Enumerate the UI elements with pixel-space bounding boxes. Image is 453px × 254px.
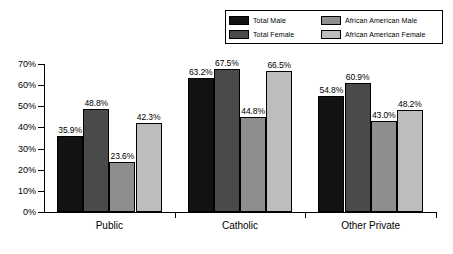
- y-axis-tick-label: 10%: [18, 186, 36, 196]
- legend-label-total-male: Total Male: [253, 16, 286, 25]
- bar: [136, 123, 162, 212]
- bar: [214, 69, 240, 212]
- bar-value-label: 66.5%: [266, 60, 292, 70]
- bar-value-label: 60.9%: [345, 72, 371, 82]
- legend-label-total-female: Total Female: [253, 30, 294, 39]
- bar-value-label: 48.8%: [83, 98, 109, 108]
- legend-swatch-total-male: [229, 16, 249, 25]
- y-axis-tick: [38, 212, 44, 213]
- legend-item-african-american-male: African American Male: [321, 14, 447, 27]
- bar-chart: Total Male African American Male Total F…: [0, 0, 453, 254]
- bar-value-label: 63.2%: [188, 67, 214, 77]
- legend-swatch-african-american-female: [321, 30, 341, 39]
- bar-value-label: 54.8%: [319, 85, 345, 95]
- bar-value-label: 35.9%: [57, 125, 83, 135]
- legend-swatch-total-female: [229, 30, 249, 39]
- bar-value-label: 67.5%: [214, 58, 240, 68]
- y-axis-tick-label: 0%: [23, 207, 36, 217]
- y-axis-tick-label: 40%: [18, 122, 36, 132]
- bar-value-label: 44.8%: [240, 106, 266, 116]
- bar-value-label: 23.6%: [110, 151, 136, 161]
- legend-label-african-american-male: African American Male: [345, 16, 417, 25]
- bar: [345, 83, 371, 212]
- legend-item-african-american-female: African American Female: [321, 28, 447, 41]
- bar: [240, 117, 266, 212]
- x-axis-category-label: Catholic: [222, 220, 258, 231]
- bar-value-label: 42.3%: [136, 112, 162, 122]
- legend-swatch-african-american-male: [321, 16, 341, 25]
- bar: [109, 162, 135, 212]
- x-axis-category-label: Public: [96, 220, 123, 231]
- legend-label-african-american-female: African American Female: [345, 30, 426, 39]
- bar: [397, 110, 423, 212]
- bar: [371, 121, 397, 212]
- bar: [318, 96, 344, 212]
- y-axis-tick-label: 20%: [18, 165, 36, 175]
- bar: [266, 71, 292, 212]
- legend-item-total-female: Total Female: [229, 28, 321, 41]
- bar: [57, 136, 83, 212]
- bar-value-label: 48.2%: [397, 99, 423, 109]
- y-axis-tick-label: 70%: [18, 59, 36, 69]
- plot-area: 35.9%48.8%23.6%42.3%63.2%67.5%44.8%66.5%…: [44, 64, 436, 212]
- x-axis-category-label: Other Private: [341, 220, 400, 231]
- legend-item-total-male: Total Male: [229, 14, 321, 27]
- x-axis-tick: [175, 213, 176, 218]
- x-axis-tick: [305, 213, 306, 218]
- y-axis-tick-label: 60%: [18, 80, 36, 90]
- y-axis-tick-label: 30%: [18, 144, 36, 154]
- bar: [188, 78, 214, 212]
- x-axis-line: [44, 212, 437, 213]
- x-axis-tick: [436, 213, 437, 218]
- y-axis-tick-label: 50%: [18, 101, 36, 111]
- bar-value-label: 43.0%: [371, 110, 397, 120]
- bar: [83, 109, 109, 212]
- chart-legend: Total Male African American Male Total F…: [225, 10, 443, 44]
